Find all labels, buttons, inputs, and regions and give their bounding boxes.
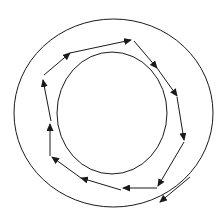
arrow-segment-5 [177, 97, 184, 140]
arrow-segment-11 [43, 80, 51, 121]
tangent-arrow [160, 177, 190, 202]
concentric-circles-diagram [0, 0, 224, 220]
tangent-arrow-line [160, 177, 190, 202]
inner-circle [57, 52, 167, 174]
arrow-segment-1 [44, 53, 70, 75]
polygon-arrow-path [43, 40, 184, 190]
outer-circle [14, 19, 213, 207]
arrow-segment-8 [81, 178, 121, 190]
diagram-canvas [0, 0, 224, 220]
arrow-segment-2 [70, 40, 131, 53]
arrow-segment-6 [158, 142, 184, 186]
